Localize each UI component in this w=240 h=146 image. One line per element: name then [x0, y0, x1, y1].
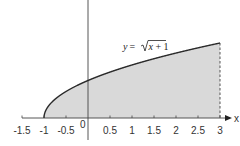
x-axis-arrow-icon — [225, 115, 232, 121]
x-tick-label: -1 — [40, 125, 49, 136]
shaded-area — [44, 43, 220, 118]
x-axis-label: x — [234, 113, 239, 124]
function-label: y=x + 1 — [122, 41, 169, 53]
x-tick-label: 2.5 — [191, 125, 205, 136]
x-tick-label: -0.5 — [57, 125, 75, 136]
x-ticks: -1.5-1-0.50.511.522.53 — [13, 116, 223, 137]
x-tick-label: 1.5 — [147, 125, 161, 136]
shaded-region — [44, 43, 220, 118]
chart: -1.5-1-0.50.511.522.53 0 x y=x + 1 — [0, 0, 240, 146]
x-tick-label: 2 — [173, 125, 179, 136]
formula-lhs: y — [122, 41, 128, 52]
x-tick-label: 1 — [129, 125, 135, 136]
formula-equals: = — [129, 41, 135, 52]
formula-radicand: x + 1 — [148, 41, 169, 52]
x-tick-label: 0.5 — [103, 125, 117, 136]
origin-label: 0 — [80, 119, 86, 130]
x-tick-label: -1.5 — [13, 125, 31, 136]
svg-text:y=: y= — [122, 41, 135, 52]
x-tick-label: 3 — [217, 125, 223, 136]
